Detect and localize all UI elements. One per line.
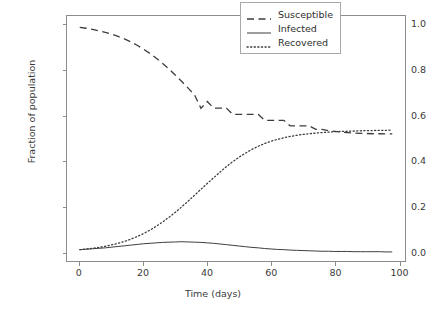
sir-model-chart-figure: 0.00.20.40.60.81.0 020406080100 Time (da…: [0, 0, 426, 313]
legend-label: Recovered: [278, 37, 328, 48]
curve-infected: [80, 242, 392, 252]
y-axis-label: Fraction of population: [26, 37, 37, 187]
y-tick-label: 0.0: [368, 248, 426, 258]
y-tick-mark: [63, 24, 67, 25]
curves-svg: [67, 16, 405, 261]
y-tick-label: 0.6: [368, 111, 426, 121]
y-tick-label: 1.0: [368, 19, 426, 29]
x-tick-label: 80: [310, 268, 360, 278]
x-tick-mark: [143, 262, 144, 266]
legend-item-susceptible[interactable]: Susceptible: [246, 7, 333, 21]
legend-line-sample-dotted: [246, 37, 272, 47]
y-tick-label: 0.4: [368, 156, 426, 166]
x-tick-mark: [271, 262, 272, 266]
y-tick-mark: [63, 253, 67, 254]
curve-susceptible: [80, 27, 392, 134]
legend-item-recovered[interactable]: Recovered: [246, 35, 333, 49]
chart-legend: SusceptibleInfectedRecovered: [240, 2, 341, 54]
curve-recovered: [80, 130, 392, 250]
x-tick-label: 0: [54, 268, 104, 278]
legend-item-infected[interactable]: Infected: [246, 21, 333, 35]
plot-area: [66, 15, 406, 262]
x-axis-label: Time (days): [0, 288, 426, 299]
y-tick-mark: [63, 70, 67, 71]
y-tick-mark: [63, 161, 67, 162]
y-tick-mark: [63, 116, 67, 117]
x-tick-mark: [207, 262, 208, 266]
legend-label: Infected: [278, 23, 317, 34]
x-tick-mark: [79, 262, 80, 266]
x-tick-label: 20: [118, 268, 168, 278]
x-tick-mark: [335, 262, 336, 266]
y-tick-label: 0.8: [368, 65, 426, 75]
x-tick-mark: [400, 262, 401, 266]
x-tick-label: 40: [182, 268, 232, 278]
y-tick-label: 0.2: [368, 202, 426, 212]
y-tick-mark: [63, 207, 67, 208]
x-tick-label: 60: [246, 268, 296, 278]
x-tick-label: 100: [375, 268, 425, 278]
legend-line-sample-dashed: [246, 9, 272, 19]
legend-line-sample-solid: [246, 23, 272, 33]
legend-label: Susceptible: [278, 9, 333, 20]
